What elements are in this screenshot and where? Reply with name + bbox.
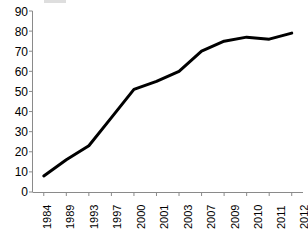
data-series-line bbox=[44, 33, 292, 176]
plot-area bbox=[0, 0, 308, 237]
y-tick-marks bbox=[29, 11, 33, 192]
line-chart: 90 80 70 60 50 40 30 20 10 0 1984 1989 1… bbox=[0, 0, 308, 237]
